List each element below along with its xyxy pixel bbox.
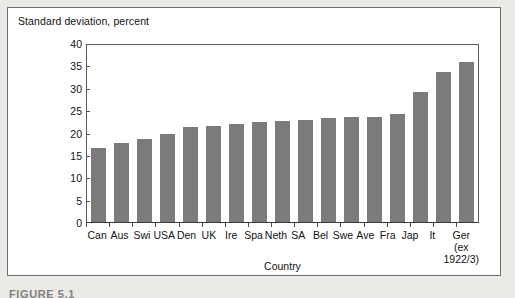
bar[interactable] [390, 114, 404, 222]
x-axis-tick-slot [271, 223, 294, 228]
x-axis-tick-slot [225, 223, 248, 228]
figure-panel: Standard deviation, percent 051015202530… [7, 7, 501, 276]
x-axis-tick-slot [364, 223, 387, 228]
x-axis-tick-marks [86, 223, 479, 228]
x-axis-tick-mark [317, 223, 318, 227]
figure-caption: FIGURE 5.1 [9, 288, 75, 298]
x-axis-tick-slot [340, 223, 363, 228]
bar[interactable] [252, 122, 266, 222]
x-axis-tick-slot [248, 223, 271, 228]
bar[interactable] [206, 126, 220, 222]
x-axis-tick-mark [340, 223, 341, 227]
x-axis-tick-mark [456, 223, 457, 227]
bar-slot [179, 45, 202, 222]
bar[interactable] [137, 139, 151, 222]
x-axis-tick-slot [387, 223, 410, 228]
bar-slot [409, 45, 432, 222]
bar[interactable] [91, 148, 105, 222]
x-axis-tick-mark [225, 223, 226, 227]
x-axis-tick-mark [179, 223, 180, 227]
x-axis-tick-mark [387, 223, 388, 227]
x-axis-tick-mark [86, 223, 87, 227]
x-axis-tick-mark [248, 223, 249, 227]
x-axis-tick-slot [410, 223, 433, 228]
bar[interactable] [298, 120, 312, 222]
x-axis-tick-mark [132, 223, 133, 227]
bar[interactable] [344, 117, 358, 222]
bar-slot [455, 45, 478, 222]
x-axis-tick-slot [456, 223, 479, 228]
bar-slot [432, 45, 455, 222]
x-axis-tick-slot [433, 223, 456, 228]
x-axis-tick-slot [317, 223, 340, 228]
bar[interactable] [183, 127, 197, 222]
bar-slot [340, 45, 363, 222]
bar[interactable] [367, 117, 381, 222]
bar[interactable] [321, 118, 335, 222]
x-axis-tick-slot [109, 223, 132, 228]
bar-slot [225, 45, 248, 222]
bar[interactable] [459, 62, 473, 222]
bar[interactable] [229, 124, 243, 222]
y-axis-tick-label: 5 [60, 195, 82, 207]
bar[interactable] [114, 143, 128, 222]
y-axis-tick-label: 30 [60, 83, 82, 95]
bar-slot [271, 45, 294, 222]
x-axis-tick-mark [109, 223, 110, 227]
bar-slot [156, 45, 179, 222]
bar-slot [386, 45, 409, 222]
y-axis-tick-label: 25 [60, 105, 82, 117]
bar-series [87, 45, 478, 222]
bar-slot [248, 45, 271, 222]
bar[interactable] [436, 72, 450, 222]
bar-slot [202, 45, 225, 222]
x-axis-tick-mark [202, 223, 203, 227]
y-axis-tick-labels: 0510152025303540 [58, 44, 82, 223]
y-axis-title: Standard deviation, percent [18, 15, 149, 27]
x-axis-tick-mark [410, 223, 411, 227]
plot-area [86, 44, 479, 223]
bar-slot [110, 45, 133, 222]
x-axis-tick-slot [179, 223, 202, 228]
y-axis-tick-label: 10 [60, 172, 82, 184]
x-axis-title: Country [86, 260, 479, 272]
y-axis-tick-label: 40 [60, 38, 82, 50]
bar-slot [317, 45, 340, 222]
bar[interactable] [275, 121, 289, 222]
bar-slot [87, 45, 110, 222]
x-axis-tick-mark [433, 223, 434, 227]
x-axis-tick-slot [202, 223, 225, 228]
x-axis-tick-slot [132, 223, 155, 228]
x-axis-tick-slot [86, 223, 109, 228]
bar[interactable] [413, 92, 427, 222]
y-axis-tick-label: 0 [60, 217, 82, 229]
bar-slot [294, 45, 317, 222]
x-axis-tick-mark [364, 223, 365, 227]
y-axis-tick-label: 15 [60, 150, 82, 162]
bar-slot [133, 45, 156, 222]
x-axis-tick-mark [294, 223, 295, 227]
bar-slot [363, 45, 386, 222]
x-axis-tick-slot [294, 223, 317, 228]
x-axis-tick-slot [155, 223, 178, 228]
bar[interactable] [160, 134, 174, 222]
x-axis-tick-mark [271, 223, 272, 227]
y-axis-tick-label: 20 [60, 128, 82, 140]
y-axis-tick-label: 35 [60, 60, 82, 72]
x-axis-tick-mark [155, 223, 156, 227]
